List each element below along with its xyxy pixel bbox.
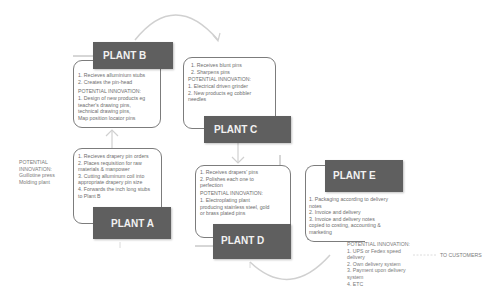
plant-a-header: PLANT A xyxy=(93,207,171,239)
arrow-b-to-c xyxy=(135,15,218,40)
plant-b-innovation: 1. Design of new products eg teacher's d… xyxy=(78,95,145,121)
plant-b-innovation-label: POTENTIAL INNOVATION: xyxy=(78,88,141,95)
plant-e-innovation-note: POTENTIAL INNOVATION: 1. UPS or Fedex sp… xyxy=(347,241,410,287)
plant-a-steps: 1. Recieves drapery pin orders 2. Places… xyxy=(78,153,150,199)
plant-d-steps: 1. Receives drapers' pins 2. Polishes ea… xyxy=(200,169,258,189)
plant-c-steps: 1. Receives blunt pins 2. Sharpens pins xyxy=(191,62,242,75)
plant-d-header: PLANT D xyxy=(213,224,291,259)
plant-b-header: PLANT B xyxy=(93,42,173,69)
plant-c-innovation-label: POTENTIAL INNOVATION: xyxy=(188,76,251,83)
plant-a-innovation-note: POTENTIAL INNOVATION: Guillotine press M… xyxy=(19,159,55,185)
to-customers-label: TO CUSTOMERS xyxy=(440,252,482,259)
plant-e-header: PLANT E xyxy=(325,160,403,192)
plant-c-innovation: 1. Electrical driven grinder 2. New prod… xyxy=(188,83,251,103)
plant-d-innovation-label: POTENTIAL INNOVATION: xyxy=(200,190,263,197)
plant-b-steps: 1. Recieves alluminium stubs 2. Creates … xyxy=(78,72,145,85)
plant-b-box: 1. Recieves alluminium stubs 2. Creates … xyxy=(73,60,161,128)
plant-c-header: PLANT C xyxy=(204,116,291,143)
plant-e-steps: 1. Packaging according to delivery notes… xyxy=(309,196,388,236)
plant-d-innovation: 1. Electroplating plant producing stainl… xyxy=(200,197,270,217)
